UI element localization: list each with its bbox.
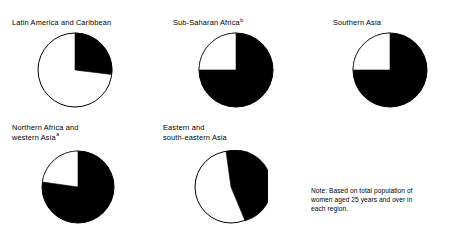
panel-label-southern-asia: Southern Asia: [333, 18, 453, 28]
pie-chart-figure: Latin America and Caribbean Sub-Saharan …: [0, 0, 453, 252]
footnote-marker-b: b: [240, 17, 244, 23]
panel-label-northern-africa-and-western-asia: Northern Africa and western Asiaa: [12, 123, 162, 142]
panel-label-sub-saharan-africa: Sub-Saharan Africab: [173, 18, 323, 28]
panel-label-text-northern-africa-and-western-asia: Northern Africa and western Asia: [12, 123, 79, 142]
pie-latin-america-and-caribbean: [37, 32, 113, 108]
panel-label-eastern-and-south-eastern-asia: Eastern and south-eastern Asia: [163, 123, 323, 142]
footnote-marker-a: a: [56, 131, 60, 137]
pie-southern-asia: [352, 32, 428, 108]
figure-note: Note: Based on total population of women…: [311, 187, 451, 214]
pie-eastern-and-south-eastern-asia: [194, 150, 268, 224]
panel-label-text-sub-saharan-africa: Sub-Saharan Africa: [173, 18, 240, 27]
pie-sub-saharan-africa: [198, 32, 274, 108]
pie-northern-africa-and-western-asia: [41, 150, 115, 224]
panel-label-latin-america-and-caribbean: Latin America and Caribbean: [12, 18, 172, 28]
